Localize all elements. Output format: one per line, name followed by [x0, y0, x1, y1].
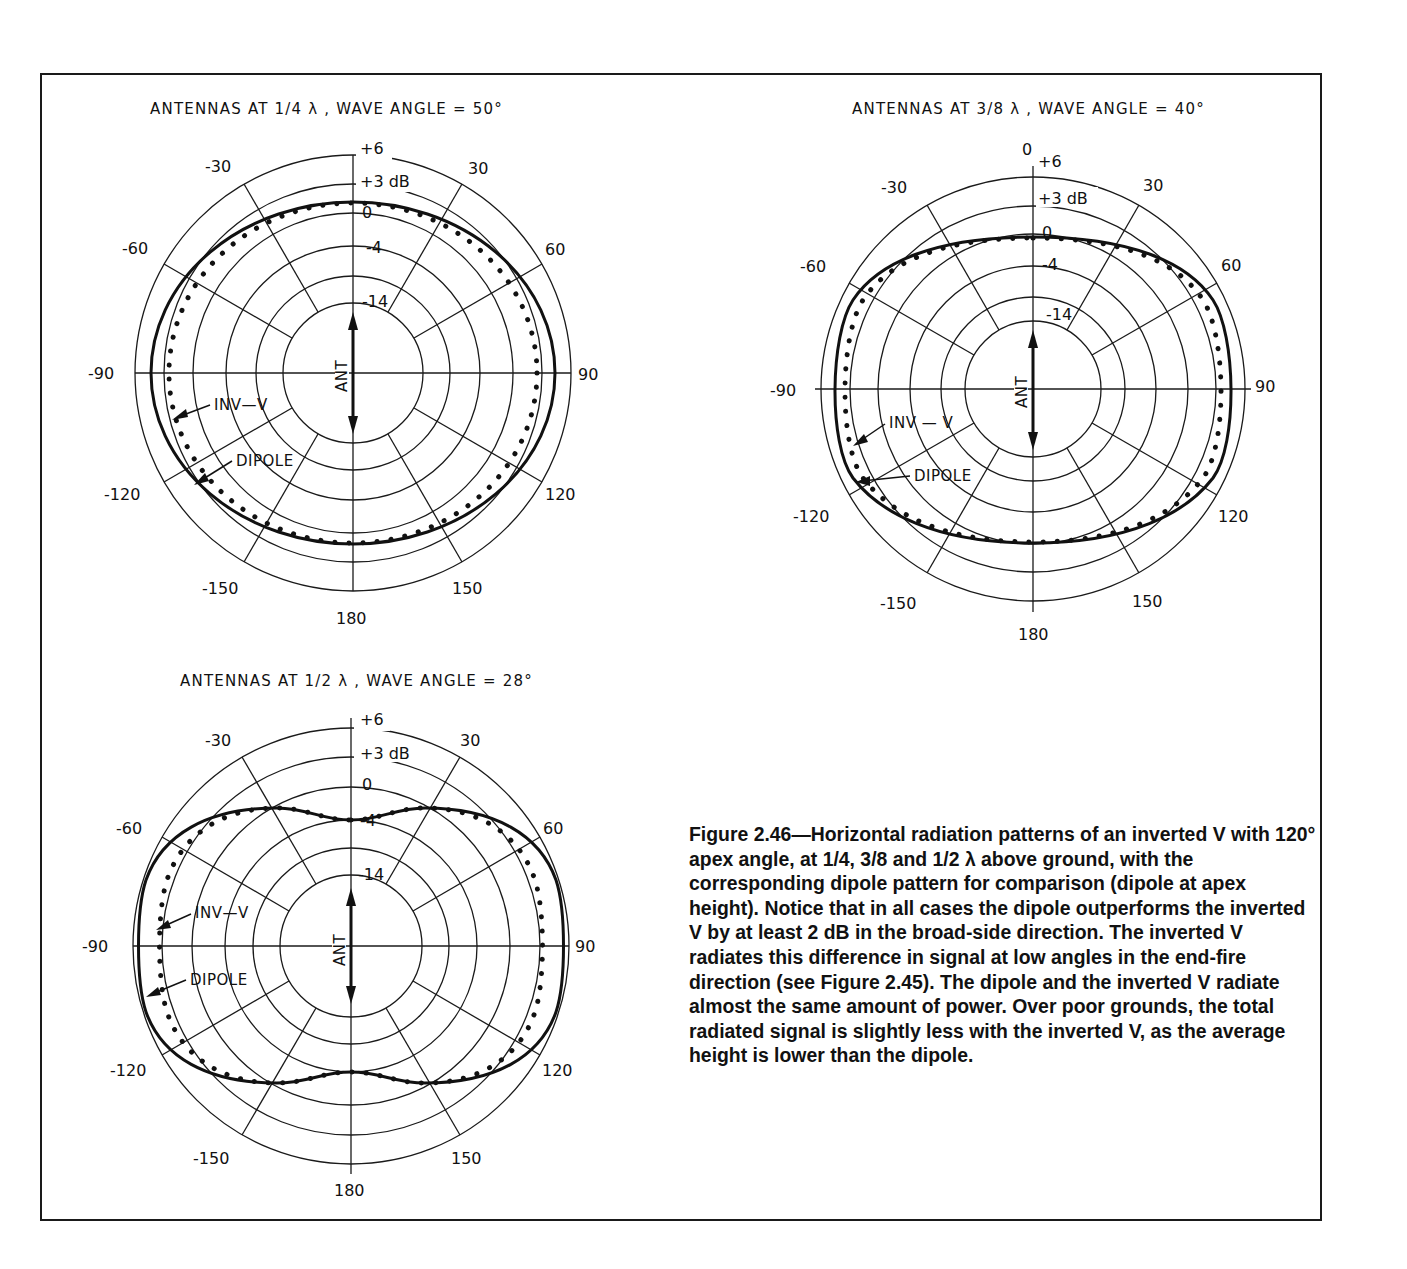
svg-text:-90: -90	[82, 937, 108, 956]
svg-text:90: 90	[575, 937, 595, 956]
svg-text:+3 dB: +3 dB	[360, 744, 410, 763]
svg-text:ANT: ANT	[331, 934, 349, 966]
svg-text:180: 180	[334, 1181, 365, 1200]
antenna-arrow-icon: ANT	[331, 888, 356, 1004]
svg-text:60: 60	[543, 819, 563, 838]
svg-text:30: 30	[460, 731, 480, 750]
svg-text:-150: -150	[193, 1149, 229, 1168]
polar-chart-half-wave: ANTENNAS AT 1/2 λ , WAVE ANGLE = 28° +6 …	[0, 0, 1407, 1269]
svg-text:+6: +6	[360, 710, 384, 729]
svg-text:0: 0	[362, 775, 372, 794]
figure-caption: Figure 2.46—Horizontal radiation pattern…	[689, 822, 1319, 1068]
svg-text:-30: -30	[205, 731, 231, 750]
svg-text:150: 150	[451, 1149, 482, 1168]
svg-text:-14: -14	[358, 865, 384, 884]
svg-text:-120: -120	[110, 1061, 146, 1080]
chart-title: ANTENNAS AT 1/2 λ , WAVE ANGLE = 28°	[180, 672, 533, 690]
svg-text:-60: -60	[116, 819, 142, 838]
svg-text:-4: -4	[360, 811, 376, 830]
svg-text:120: 120	[542, 1061, 573, 1080]
svg-text:DIPOLE: DIPOLE	[190, 971, 248, 989]
svg-text:INV—V: INV—V	[195, 904, 249, 922]
